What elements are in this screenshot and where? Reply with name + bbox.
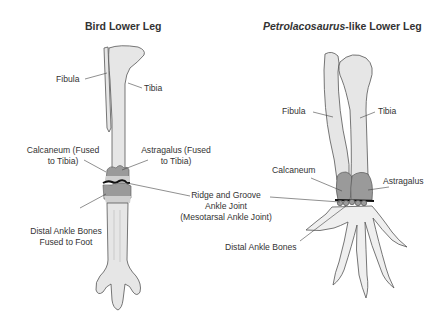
bird-label-astragalus: Astragalus (Fused to Tibia)	[138, 145, 214, 167]
bird-label-tibia: Tibia	[144, 83, 162, 94]
ridge-groove-line3: (Mesotarsal Ankle Joint)	[176, 212, 276, 223]
bird-label-distal-ankle-bones: Distal Ankle Bones Fused to Foot	[26, 226, 106, 248]
bird-label-fibula: Fibula	[56, 74, 79, 85]
bird-label-astragalus-line2: to Tibia)	[138, 156, 214, 167]
bird-leg-illustration	[96, 46, 145, 310]
petro-label-fibula: Fibula	[282, 106, 305, 117]
bird-label-calcaneum-line2: to Tibia)	[26, 156, 100, 167]
petro-label-astragalus: Astragalus	[383, 176, 424, 187]
bird-label-calcaneum: Calcaneum (Fused to Tibia)	[26, 145, 100, 167]
petro-calcaneum	[336, 172, 352, 200]
ridge-groove-ankle-joint-label: Ridge and Groove Ankle Joint (Mesotarsal…	[176, 190, 276, 223]
ridge-groove-line2: Ankle Joint	[176, 201, 276, 212]
petro-label-distal-ankle-bones: Distal Ankle Bones	[225, 242, 297, 253]
bird-leader-lines	[80, 73, 190, 208]
petro-astragalus	[351, 172, 373, 200]
petro-label-tibia: Tibia	[378, 106, 396, 117]
bird-label-distal-line1: Distal Ankle Bones	[26, 226, 106, 237]
ridge-groove-line1: Ridge and Groove	[176, 190, 276, 201]
bird-label-distal-line2: Fused to Foot	[26, 237, 106, 248]
bird-tarsometatarsus	[96, 203, 141, 310]
bird-label-calcaneum-line1: Calcaneum (Fused	[26, 145, 100, 156]
petro-label-calcaneum: Calcaneum	[272, 165, 315, 176]
bird-label-astragalus-line1: Astragalus (Fused	[138, 145, 214, 156]
petro-foot	[306, 206, 407, 298]
